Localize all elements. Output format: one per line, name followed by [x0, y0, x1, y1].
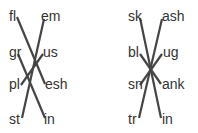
left-word: tr	[128, 112, 137, 126]
right-word: ank	[162, 77, 185, 91]
right-word: esh	[45, 77, 68, 91]
left-word: sn	[128, 77, 143, 91]
left-word: bl	[128, 45, 139, 59]
left-word: st	[9, 112, 20, 126]
left-word: sk	[128, 9, 142, 23]
right-word: ug	[163, 45, 179, 59]
matching-diagram-2: sk bl sn tr ash ug ank in	[99, 0, 198, 133]
right-word: ash	[162, 9, 185, 23]
right-word: em	[41, 9, 60, 23]
left-word: gr	[9, 45, 21, 59]
connector-line	[18, 54, 45, 118]
left-word: pl	[9, 77, 20, 91]
right-word: in	[44, 112, 55, 126]
right-word: in	[162, 112, 173, 126]
matching-diagram-1: fl gr pl st em us esh in	[0, 0, 99, 133]
right-word: us	[43, 45, 58, 59]
left-word: fl	[9, 9, 16, 23]
